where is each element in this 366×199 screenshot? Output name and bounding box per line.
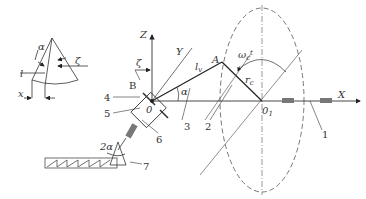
omega-label: ωct [238, 49, 253, 62]
point-o-label: 0 [146, 104, 153, 115]
callout-3: 3 [184, 121, 190, 132]
spring-6 [125, 123, 137, 138]
spring-icon [282, 98, 294, 103]
plane-line-1 [200, 50, 302, 175]
callout-leaders [113, 85, 322, 164]
alpha-arc [177, 87, 179, 101]
lv-label: lv [195, 61, 202, 74]
inset-l-label: l [20, 68, 23, 79]
mechanism-diagram: α l ζ x [0, 0, 366, 199]
inset-cone-detail [20, 38, 88, 98]
alpha-label: α [181, 86, 188, 97]
link-rc [222, 62, 262, 101]
callout-7: 7 [143, 161, 149, 172]
callout-4: 4 [104, 92, 110, 103]
callout-6: 6 [156, 134, 162, 145]
point-o1-label: 01 [262, 105, 273, 118]
inset-x-label: x [18, 88, 24, 99]
origin-point [150, 99, 154, 103]
point-b-label: B [129, 80, 136, 91]
callout-5: 5 [104, 108, 110, 119]
y-axis-label: Y [176, 46, 184, 57]
spring-icon [320, 98, 332, 103]
callout-1: 1 [322, 129, 328, 140]
ratchet-strip [45, 158, 117, 168]
x-axis-label: X [337, 89, 346, 100]
callout-2: 2 [205, 121, 211, 132]
zeta-label: ζ [136, 57, 142, 68]
point-a-label: A [211, 54, 219, 65]
inset-alpha-label: α [38, 41, 45, 52]
inset-zeta-label: ζ [75, 55, 81, 66]
two-alpha-label: 2α [99, 141, 113, 152]
z-axis-label: Z [139, 29, 148, 40]
